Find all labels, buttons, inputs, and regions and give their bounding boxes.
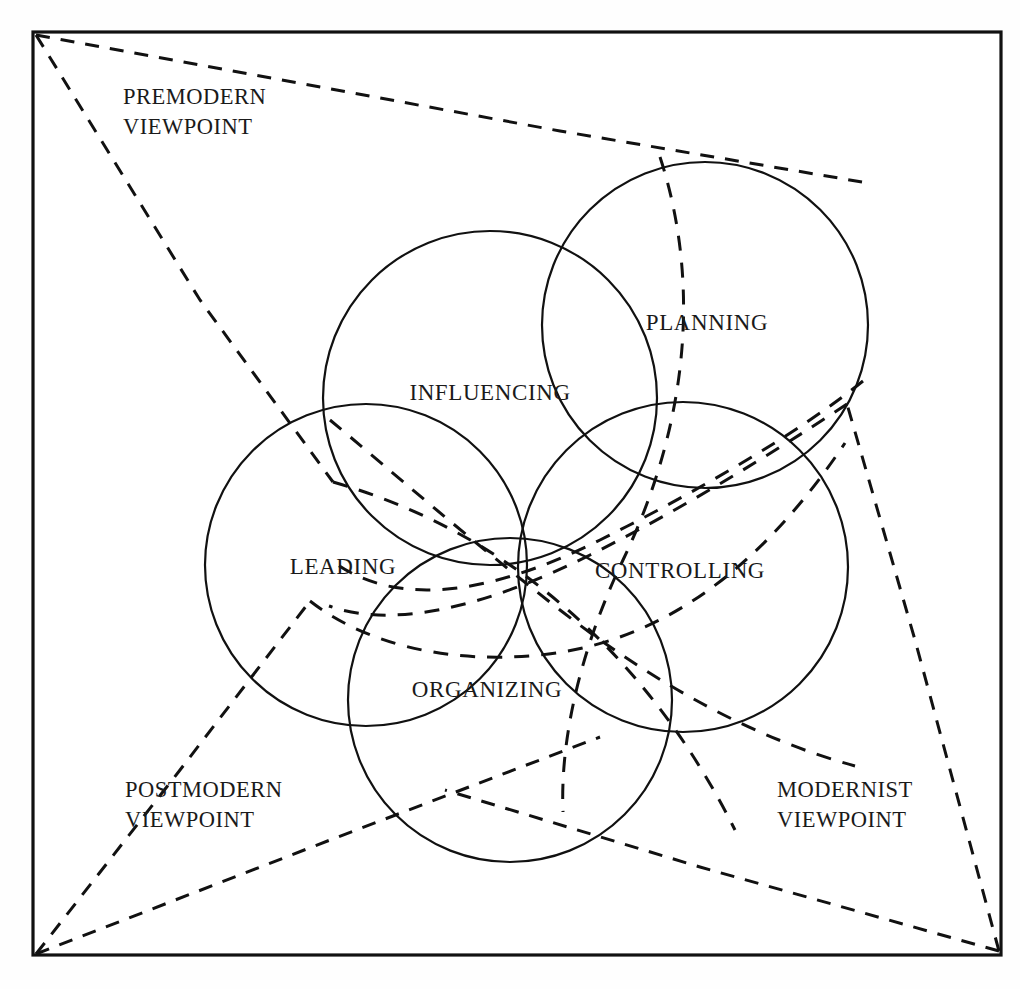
- postmodern-line-1: POSTMODERN: [125, 777, 283, 802]
- diagram-root: INFLUENCING PLANNING LEADING CONTROLLING…: [0, 0, 1020, 989]
- modernist-line-1: MODERNIST: [777, 777, 913, 802]
- postmodern-line-2: VIEWPOINT: [125, 807, 254, 832]
- venn-diagram-figure: INFLUENCING PLANNING LEADING CONTROLLING…: [0, 0, 1020, 989]
- label-leading: LEADING: [290, 554, 396, 579]
- label-planning: PLANNING: [646, 310, 768, 335]
- premodern-line-2: VIEWPOINT: [123, 114, 252, 139]
- label-influencing: INFLUENCING: [409, 380, 570, 405]
- label-organizing: ORGANIZING: [412, 677, 562, 702]
- label-controlling: CONTROLLING: [595, 558, 765, 583]
- modernist-line-2: VIEWPOINT: [777, 807, 906, 832]
- premodern-line-1: PREMODERN: [123, 84, 266, 109]
